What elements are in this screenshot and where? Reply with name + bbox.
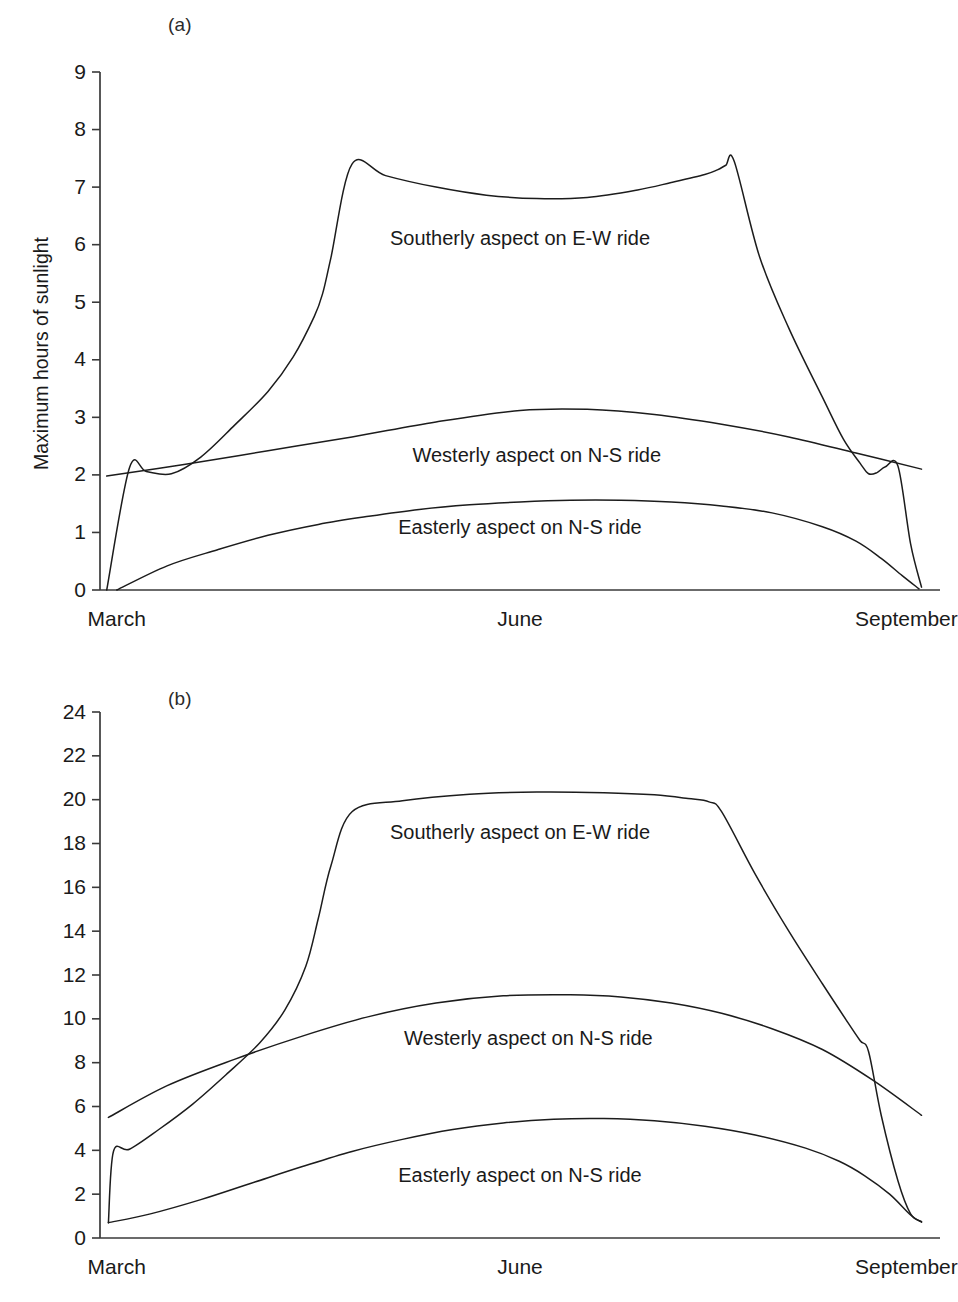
y-tick-label: 2 [74,1182,86,1205]
panel-b-plot-area: 024681012141618202224MarchJuneSeptemberS… [0,650,958,1302]
x-tick-label: September [855,607,958,630]
figure-sunlight-heat-energy: (a) Maximum hours of sunlight 0123456789… [0,0,958,1302]
y-tick-label: 4 [74,347,86,370]
series-line [108,792,921,1223]
x-tick-label: March [88,607,146,630]
series-annotation-label: Southerly aspect on E-W ride [390,227,650,249]
y-tick-label: 2 [74,462,86,485]
y-tick-label: 14 [63,919,87,942]
series-annotation-label: Westerly aspect on N-S ride [404,1027,653,1049]
y-tick-label: 6 [74,1094,86,1117]
y-tick-label: 1 [74,520,86,543]
x-tick-label: June [497,607,543,630]
y-tick-label: 24 [63,700,87,723]
y-tick-label: 5 [74,290,86,313]
panel-a-plot-area: 0123456789MarchJuneSeptemberSoutherly as… [0,0,958,650]
chart-panel-b: (b) Heat energy (MJ m-2) 024681012141618… [0,650,958,1302]
y-tick-label: 16 [63,875,86,898]
x-tick-label: June [497,1255,543,1278]
y-tick-label: 18 [63,831,86,854]
series-annotation-label: Southerly aspect on E-W ride [390,821,650,843]
x-tick-label: March [88,1255,146,1278]
series-line [108,995,921,1118]
y-tick-label: 3 [74,405,86,428]
y-tick-label: 6 [74,232,86,255]
x-tick-label: September [855,1255,958,1278]
series-annotation-label: Westerly aspect on N-S ride [412,444,661,466]
y-tick-label: 10 [63,1006,86,1029]
y-tick-label: 4 [74,1138,86,1161]
chart-panel-a: (a) Maximum hours of sunlight 0123456789… [0,0,958,650]
series-line [117,500,919,590]
y-tick-label: 9 [74,60,86,83]
y-tick-label: 8 [74,117,86,140]
y-tick-label: 0 [74,1226,86,1249]
series-annotation-label: Easterly aspect on N-S ride [398,516,641,538]
y-tick-label: 12 [63,963,86,986]
y-tick-label: 22 [63,743,86,766]
y-tick-label: 8 [74,1050,86,1073]
y-tick-label: 7 [74,175,86,198]
y-tick-label: 0 [74,578,86,601]
y-tick-label: 20 [63,787,86,810]
series-annotation-label: Easterly aspect on N-S ride [398,1164,641,1186]
